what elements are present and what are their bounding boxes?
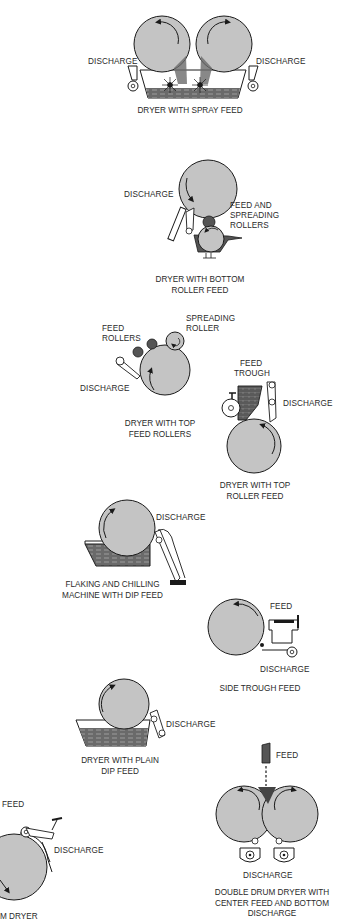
spray-feed-dryer-drawing: [128, 16, 258, 98]
plain-dip-discharge-label: DISCHARGE: [166, 720, 216, 730]
bottom-roller-feed-label-line3: ROLLERS: [230, 221, 269, 231]
feed-trough-label-line1: FEED: [240, 359, 262, 369]
drum-dryer-diagrams: [0, 0, 350, 923]
plain-dip-feed-caption: DRYER WITH PLAIN DIP FEED: [65, 756, 175, 777]
top-feed-rollers-discharge-label: DISCHARGE: [80, 384, 130, 394]
double-drum-discharge-label: DISCHARGE: [243, 871, 293, 881]
flaking-chilling-caption: FLAKING AND CHILLING MACHINE WITH DIP FE…: [50, 580, 175, 601]
spreading-roller-label-line1: SPREADING: [186, 314, 235, 324]
bottom-roller-feed-label-line1: FEED AND: [230, 201, 272, 211]
spray-feed-discharge-left-label: DISCHARGE: [88, 57, 138, 67]
spray-feed-discharge-right-label: DISCHARGE: [256, 57, 306, 67]
side-trough-feed-label: FEED: [270, 602, 292, 612]
single-drum-feed-label: FEED: [2, 800, 24, 810]
side-trough-discharge-label: DISCHARGE: [260, 665, 310, 675]
double-drum-caption: DOUBLE DRUM DRYER WITH CENTER FEED AND B…: [210, 888, 334, 920]
top-roller-feed-caption: DRYER WITH TOP ROLLER FEED: [200, 481, 310, 502]
bottom-roller-discharge-label: DISCHARGE: [124, 190, 174, 200]
top-roller-feed-discharge-label: DISCHARGE: [283, 399, 333, 409]
spreading-roller-label-line2: ROLLER: [186, 324, 219, 334]
flaking-discharge-label: DISCHARGE: [156, 513, 206, 523]
feed-rollers-label-line2: ROLLERS: [102, 334, 141, 344]
feed-trough-label-line2: TROUGH: [234, 369, 270, 379]
plain-dip-feed-drawing: [76, 679, 165, 746]
single-drum-caption: M DRYER: [0, 912, 48, 923]
double-drum-center-feed-drawing: [216, 743, 318, 862]
side-trough-feed-caption: SIDE TROUGH FEED: [205, 684, 315, 695]
spray-feed-caption: DRYER WITH SPRAY FEED: [120, 106, 260, 117]
single-drum-discharge-label: DISCHARGE: [54, 846, 104, 856]
bottom-roller-feed-label-line2: SPREADING: [230, 211, 279, 221]
double-drum-feed-label: FEED: [276, 751, 298, 761]
feed-rollers-label-line1: FEED: [102, 324, 124, 334]
bottom-roller-feed-caption: DRYER WITH BOTTOM ROLLER FEED: [135, 275, 265, 296]
top-roller-feed-drawing: [222, 382, 281, 473]
top-feed-rollers-caption: DRYER WITH TOP FEED ROLLERS: [105, 419, 215, 440]
single-drum-drawing: [0, 818, 62, 900]
